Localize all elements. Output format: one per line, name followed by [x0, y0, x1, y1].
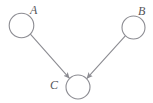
node-b-circle[interactable]: [122, 16, 145, 39]
edge-b-to-c: [87, 36, 125, 79]
diagram-canvas: A B C: [0, 0, 153, 103]
node-c-label: C: [50, 78, 59, 92]
node-b-label: B: [138, 4, 146, 18]
label-group: A B C: [29, 3, 146, 92]
node-group: [9, 13, 145, 99]
graph-svg: A B C: [0, 0, 153, 103]
node-c-circle[interactable]: [66, 75, 90, 99]
edge-group: [31, 34, 126, 78]
node-a-label: A: [29, 3, 38, 17]
edge-a-to-c: [31, 34, 70, 78]
